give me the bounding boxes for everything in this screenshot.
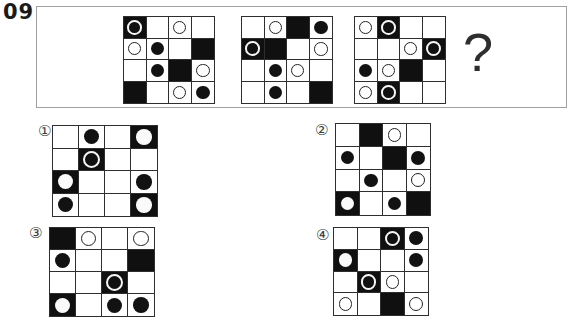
grid-cell-black-cell-white-dot bbox=[336, 192, 360, 215]
grid-cell-white-cell-outline-circle bbox=[287, 60, 310, 82]
option-2-label[interactable]: ② bbox=[315, 121, 328, 139]
puzzle-page: 09 ? ① ② ③ ④ bbox=[0, 0, 573, 321]
grid-cell-black-cell bbox=[383, 147, 407, 170]
grid-cell-white-empty-cell bbox=[287, 39, 310, 61]
grid-cell-black-cell-white-ring bbox=[378, 17, 401, 39]
option-4-label[interactable]: ④ bbox=[316, 226, 329, 244]
grid-cell-white-empty-cell bbox=[383, 170, 407, 193]
black-dot-icon bbox=[133, 297, 149, 313]
grid-cell-white-cell-black-dot bbox=[360, 170, 384, 193]
white-dot-icon bbox=[339, 253, 353, 267]
grid-cell-white-cell-outline-circle bbox=[192, 60, 215, 82]
white-dot-icon bbox=[136, 197, 152, 213]
grid-cell-black-cell-white-ring bbox=[378, 82, 401, 104]
grid-cell-white-empty-cell bbox=[423, 17, 446, 39]
white-ring-icon bbox=[245, 41, 260, 56]
grid-cell-white-empty-cell bbox=[105, 171, 131, 194]
grid-cell-white-empty-cell bbox=[50, 272, 76, 294]
grid-cell-black-cell bbox=[381, 293, 405, 315]
grid-cell-black-cell-white-ring bbox=[242, 39, 265, 61]
grid-cell-black-cell bbox=[400, 60, 423, 82]
grid-cell-white-empty-cell bbox=[334, 272, 358, 294]
grid-cell-white-empty-cell bbox=[381, 250, 405, 272]
outline-circle-icon bbox=[81, 231, 96, 246]
grid-cell-white-empty-cell bbox=[360, 147, 384, 170]
white-ring-icon bbox=[106, 274, 123, 291]
grid-cell-white-cell-outline-circle bbox=[310, 39, 333, 61]
grid-cell-white-cell-outline-circle bbox=[265, 17, 288, 39]
option-4-grid[interactable] bbox=[333, 227, 429, 316]
grid-cell-black-cell-white-ring bbox=[102, 272, 128, 294]
outline-circle-icon bbox=[359, 86, 372, 99]
grid-cell-white-cell-black-dot bbox=[265, 82, 288, 104]
grid-cell-white-cell-black-dot bbox=[131, 171, 157, 194]
white-ring-icon bbox=[83, 151, 100, 168]
white-ring-icon bbox=[385, 231, 400, 246]
grid-cell-black-cell-white-dot bbox=[131, 126, 157, 149]
grid-cell-white-cell-black-dot bbox=[147, 60, 170, 82]
grid-cell-white-cell-black-dot bbox=[405, 228, 429, 250]
grid-cell-white-cell-outline-circle bbox=[407, 170, 431, 193]
grid-cell-white-empty-cell bbox=[76, 250, 102, 272]
grid-cell-white-empty-cell bbox=[407, 124, 431, 147]
grid-cell-black-cell bbox=[310, 82, 333, 104]
grid-cell-white-empty-cell bbox=[358, 293, 382, 315]
black-dot-icon bbox=[269, 86, 282, 99]
outline-circle-icon bbox=[411, 173, 425, 187]
grid-cell-white-empty-cell bbox=[76, 294, 102, 316]
outline-circle-icon bbox=[133, 231, 149, 247]
outline-circle-icon bbox=[386, 275, 400, 289]
grid-cell-white-empty-cell bbox=[192, 17, 215, 39]
grid-cell-white-cell-outline-circle bbox=[169, 82, 192, 104]
example-grid-3 bbox=[354, 16, 446, 104]
outline-circle-icon bbox=[196, 64, 210, 78]
option-1-grid[interactable] bbox=[52, 125, 158, 217]
grid-cell-white-empty-cell bbox=[169, 39, 192, 61]
grid-cell-white-empty-cell bbox=[358, 228, 382, 250]
grid-cell-black-cell-white-dot bbox=[53, 171, 79, 194]
grid-cell-white-empty-cell bbox=[131, 149, 157, 172]
grid-cell-white-empty-cell bbox=[400, 82, 423, 104]
grid-cell-white-cell-black-dot bbox=[50, 250, 76, 272]
grid-cell-white-empty-cell bbox=[53, 126, 79, 149]
grid-cell-white-cell-outline-circle bbox=[405, 293, 429, 315]
grid-cell-white-cell-outline-circle bbox=[169, 17, 192, 39]
outline-circle-icon bbox=[128, 42, 141, 55]
grid-cell-black-cell-white-ring bbox=[124, 17, 147, 39]
black-dot-icon bbox=[409, 253, 423, 267]
question-mark: ? bbox=[463, 21, 493, 83]
grid-cell-white-empty-cell bbox=[147, 82, 170, 104]
grid-cell-white-empty-cell bbox=[242, 60, 265, 82]
grid-cell-white-empty-cell bbox=[423, 60, 446, 82]
option-1-label[interactable]: ① bbox=[38, 122, 51, 140]
grid-cell-black-cell-white-ring bbox=[358, 272, 382, 294]
grid-cell-white-empty-cell bbox=[334, 228, 358, 250]
grid-cell-white-empty-cell bbox=[423, 82, 446, 104]
grid-cell-white-cell-black-dot bbox=[405, 250, 429, 272]
grid-cell-white-cell-outline-circle bbox=[128, 228, 154, 250]
grid-cell-black-cell bbox=[265, 39, 288, 61]
grid-cell-white-empty-cell bbox=[79, 171, 105, 194]
grid-cell-black-cell bbox=[360, 124, 384, 147]
grid-cell-black-cell bbox=[124, 82, 147, 104]
option-2-grid[interactable] bbox=[335, 123, 431, 216]
grid-cell-black-cell bbox=[407, 192, 431, 215]
outline-circle-icon bbox=[314, 42, 328, 56]
white-dot-icon bbox=[136, 129, 152, 145]
option-3-label[interactable]: ③ bbox=[29, 224, 42, 242]
outline-circle-icon bbox=[409, 297, 423, 311]
outline-circle-icon bbox=[291, 64, 304, 77]
grid-cell-white-empty-cell bbox=[287, 82, 310, 104]
grid-cell-white-empty-cell bbox=[355, 39, 378, 61]
outline-circle-icon bbox=[339, 297, 353, 311]
grid-cell-white-empty-cell bbox=[242, 82, 265, 104]
grid-cell-black-cell bbox=[169, 60, 192, 82]
black-dot-icon bbox=[364, 174, 378, 188]
black-dot-icon bbox=[388, 197, 402, 211]
black-dot-icon bbox=[409, 231, 423, 245]
black-dot-icon bbox=[314, 21, 328, 35]
grid-cell-white-cell-outline-circle bbox=[76, 228, 102, 250]
option-3-grid[interactable] bbox=[49, 227, 155, 317]
outline-circle-icon bbox=[388, 128, 402, 142]
black-dot-icon bbox=[151, 64, 164, 77]
